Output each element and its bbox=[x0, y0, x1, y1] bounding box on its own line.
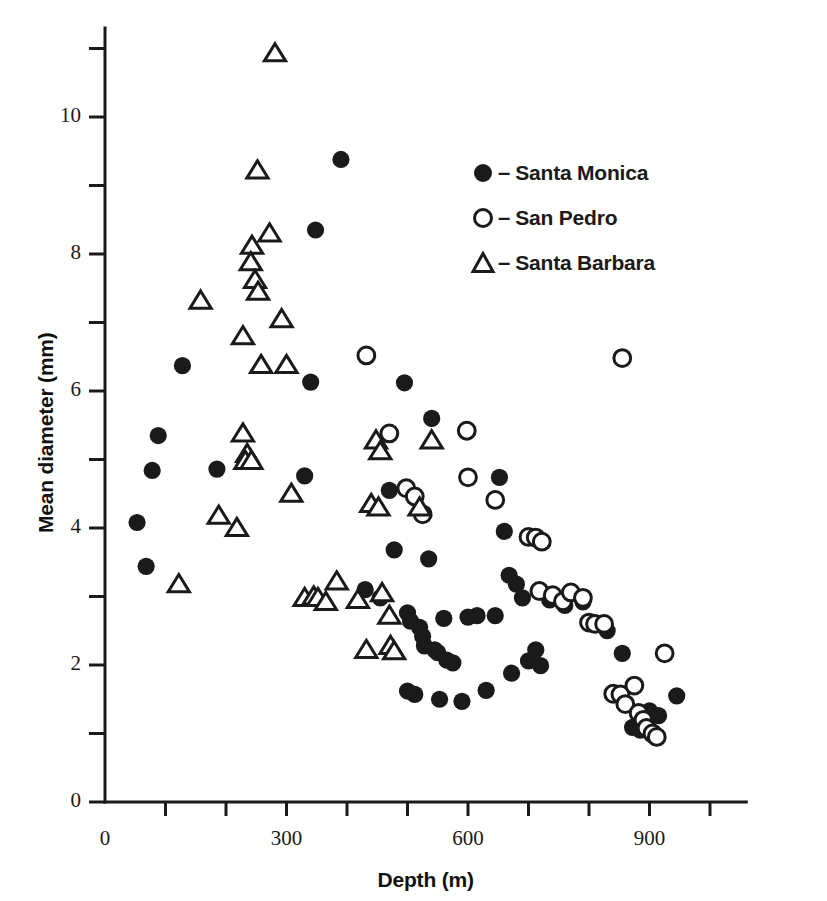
point-open-triangle bbox=[232, 327, 253, 344]
point-open-triangle bbox=[240, 253, 261, 270]
x-tick-label: 900 bbox=[620, 826, 680, 851]
data-points bbox=[128, 44, 685, 746]
point-open-triangle bbox=[232, 424, 253, 441]
point-filled-circle bbox=[208, 460, 225, 477]
point-open-triangle bbox=[264, 44, 285, 61]
point-filled-circle bbox=[423, 410, 440, 427]
y-tick-label: 0 bbox=[21, 788, 81, 813]
point-filled-circle bbox=[514, 589, 531, 606]
point-open-circle bbox=[458, 422, 475, 439]
point-filled-circle bbox=[444, 654, 461, 671]
plot-canvas bbox=[0, 0, 827, 901]
x-tick-label: 600 bbox=[438, 826, 498, 851]
point-open-circle bbox=[487, 492, 504, 509]
point-filled-circle bbox=[532, 657, 549, 674]
point-filled-circle bbox=[386, 541, 403, 558]
point-filled-circle bbox=[435, 610, 452, 627]
point-filled-circle bbox=[668, 687, 685, 704]
point-open-circle bbox=[614, 350, 631, 367]
y-tick-label: 2 bbox=[21, 651, 81, 676]
open-circle-icon bbox=[470, 205, 496, 231]
point-open-circle bbox=[533, 533, 550, 550]
scatter-plot-figure: 03006009000246810 Depth (m) Mean diamete… bbox=[0, 0, 827, 901]
series-santa-barbara bbox=[168, 44, 442, 659]
point-open-triangle bbox=[271, 309, 292, 326]
y-tick-label: 8 bbox=[21, 240, 81, 265]
point-filled-circle bbox=[144, 462, 161, 479]
point-open-triangle bbox=[190, 291, 211, 308]
point-filled-circle bbox=[420, 550, 437, 567]
y-axis-title: Mean diameter (mm) bbox=[34, 332, 58, 533]
point-filled-circle bbox=[614, 645, 631, 662]
x-tick-label: 300 bbox=[257, 826, 317, 851]
point-filled-circle bbox=[174, 357, 191, 374]
x-axis-title: Depth (m) bbox=[356, 868, 496, 892]
point-filled-circle bbox=[487, 607, 504, 624]
point-open-circle bbox=[381, 425, 398, 442]
point-open-circle bbox=[648, 729, 665, 746]
point-open-triangle bbox=[276, 355, 297, 372]
point-filled-circle bbox=[496, 523, 513, 540]
point-filled-circle bbox=[431, 691, 448, 708]
point-open-triangle bbox=[259, 224, 280, 241]
point-filled-circle bbox=[307, 221, 324, 238]
point-filled-circle bbox=[478, 682, 495, 699]
point-filled-circle bbox=[396, 374, 413, 391]
point-filled-circle bbox=[128, 514, 145, 531]
point-open-circle bbox=[656, 645, 673, 662]
point-open-triangle bbox=[208, 506, 229, 523]
point-open-triangle bbox=[379, 606, 400, 623]
legend-label-santa-barbara: Santa Barbara bbox=[515, 251, 655, 275]
legend-label-san-pedro: San Pedro bbox=[515, 206, 617, 230]
point-open-triangle bbox=[247, 161, 268, 178]
point-open-circle bbox=[460, 469, 477, 486]
legend-label-santa-monica: Santa Monica bbox=[515, 161, 648, 185]
point-open-circle bbox=[596, 616, 613, 633]
legend-item: – Santa Barbara bbox=[470, 240, 655, 285]
open-triangle-icon bbox=[470, 250, 496, 276]
point-filled-circle bbox=[503, 665, 520, 682]
legend-dash: – bbox=[498, 207, 510, 229]
legend-item: – San Pedro bbox=[470, 195, 655, 240]
legend: – Santa Monica – San Pedro – Santa Barba… bbox=[470, 150, 655, 285]
point-open-circle bbox=[575, 589, 592, 606]
point-filled-circle bbox=[527, 641, 544, 658]
point-open-triangle bbox=[168, 575, 189, 592]
point-open-triangle bbox=[326, 572, 347, 589]
point-filled-circle bbox=[332, 151, 349, 168]
point-open-triangle bbox=[250, 355, 271, 372]
point-open-circle bbox=[358, 347, 375, 364]
legend-dash: – bbox=[498, 162, 510, 184]
point-filled-circle bbox=[150, 427, 167, 444]
point-filled-circle bbox=[381, 482, 398, 499]
point-filled-circle bbox=[468, 607, 485, 624]
point-filled-circle bbox=[491, 469, 508, 486]
point-filled-circle bbox=[296, 467, 313, 484]
point-open-triangle bbox=[356, 640, 377, 657]
point-open-triangle bbox=[281, 484, 302, 501]
point-filled-circle bbox=[138, 558, 155, 575]
point-filled-circle bbox=[453, 693, 470, 710]
x-tick-label: 0 bbox=[75, 826, 135, 851]
point-open-circle bbox=[626, 677, 643, 694]
point-filled-circle bbox=[406, 686, 423, 703]
legend-dash: – bbox=[498, 252, 510, 274]
y-tick-label: 10 bbox=[21, 103, 81, 128]
point-open-triangle bbox=[421, 431, 442, 448]
filled-circle-icon bbox=[470, 160, 496, 186]
legend-item: – Santa Monica bbox=[470, 150, 655, 195]
point-filled-circle bbox=[302, 373, 319, 390]
